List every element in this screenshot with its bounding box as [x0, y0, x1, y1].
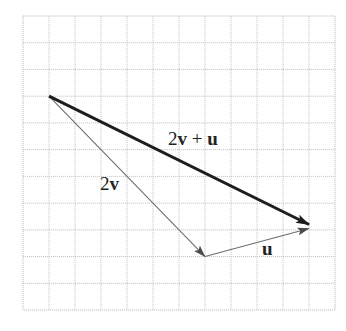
- label-two-v-coefficient: 2: [100, 173, 110, 194]
- label-sum-operator: +: [187, 128, 207, 149]
- vector-diagram: 2v + u 2v u: [0, 0, 346, 331]
- label-sum-vector-v: v: [178, 128, 188, 149]
- vector-sum: [49, 96, 309, 224]
- label-two-v-plus-u: 2v + u: [168, 128, 218, 149]
- label-two-v-vector: v: [110, 173, 120, 194]
- label-u: u: [262, 238, 273, 259]
- vector-two-v-plus-u-line: [49, 96, 309, 224]
- label-sum-coefficient: 2: [168, 128, 178, 149]
- label-sum-vector-u: u: [207, 128, 218, 149]
- label-u-vector: u: [262, 238, 273, 259]
- label-two-v: 2v: [100, 173, 120, 194]
- grid: [23, 16, 335, 310]
